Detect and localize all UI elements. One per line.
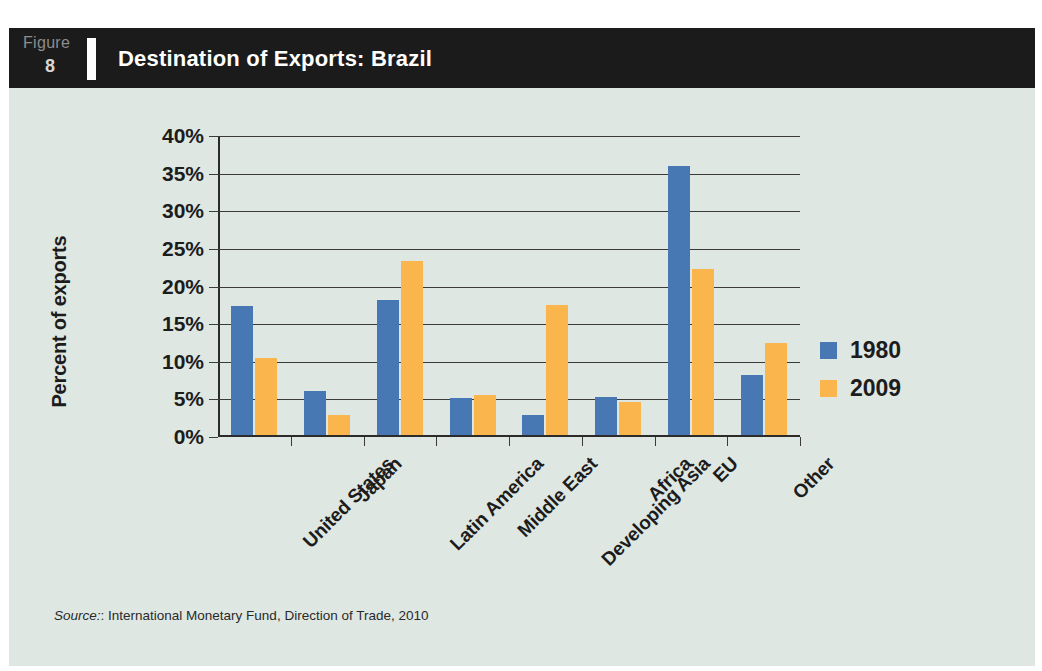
- x-tick-mark: [436, 437, 437, 446]
- header-divider-rule: [87, 38, 96, 80]
- y-tick-label: 5%: [174, 387, 204, 411]
- bar-1980-middle-east: [450, 398, 472, 435]
- y-tick-label: 15%: [162, 312, 204, 336]
- x-axis-label: Developing Asia: [598, 453, 715, 570]
- y-tick-mark: [209, 362, 218, 363]
- bar-2009-japan: [328, 415, 350, 435]
- x-tick-mark: [509, 437, 510, 446]
- legend-item-1980: 1980: [820, 331, 901, 369]
- y-tick-mark: [209, 399, 218, 400]
- figure-header-bar: Figure 8 Destination of Exports: Brazil: [9, 28, 1035, 90]
- bar-2009-africa: [619, 402, 641, 435]
- gridline: [218, 174, 800, 175]
- bar-1980-japan: [304, 391, 326, 435]
- chart-legend: 1980 2009: [820, 331, 901, 407]
- figure-root: Figure 8 Destination of Exports: Brazil …: [0, 0, 1042, 671]
- figure-word-label: Figure: [23, 34, 70, 52]
- source-text: : International Monetary Fund, Direction…: [101, 608, 429, 623]
- figure-panel: Percent of exports 0%5%10%15%20%25%30%35…: [9, 88, 1035, 666]
- y-tick-mark: [209, 324, 218, 325]
- x-tick-mark: [291, 437, 292, 446]
- bar-1980-united-states: [231, 306, 253, 435]
- gridline: [218, 136, 800, 137]
- legend-label-1980: 1980: [850, 337, 901, 364]
- x-axis-label: EU: [708, 453, 742, 487]
- bar-1980-eu: [668, 166, 690, 435]
- bar-1980-developing-asia: [522, 415, 544, 435]
- y-tick-label: 25%: [162, 237, 204, 261]
- bar-chart: Percent of exports 0%5%10%15%20%25%30%35…: [9, 88, 1035, 666]
- bar-2009-eu: [692, 269, 714, 435]
- y-tick-label: 40%: [162, 124, 204, 148]
- bar-2009-united-states: [255, 358, 277, 436]
- figure-number-label: 8: [45, 56, 55, 77]
- legend-label-2009: 2009: [850, 375, 901, 402]
- x-tick-mark: [800, 437, 801, 446]
- y-tick-mark: [209, 437, 218, 438]
- y-tick-label: 30%: [162, 199, 204, 223]
- bar-2009-middle-east: [474, 395, 496, 435]
- x-tick-mark: [655, 437, 656, 446]
- y-tick-mark: [209, 174, 218, 175]
- y-tick-mark: [209, 136, 218, 137]
- y-tick-label: 20%: [162, 275, 204, 299]
- plot-area: 0%5%10%15%20%25%30%35%40%United StatesJa…: [218, 136, 800, 437]
- y-tick-label: 35%: [162, 162, 204, 186]
- x-tick-mark: [582, 437, 583, 446]
- bar-2009-other: [765, 343, 787, 435]
- bar-1980-latin-america: [377, 300, 399, 435]
- figure-number-block: Figure 8: [9, 28, 87, 90]
- x-axis-label: Other: [788, 453, 839, 504]
- legend-swatch-2009-icon: [820, 380, 837, 397]
- gridline: [218, 211, 800, 212]
- legend-swatch-1980-icon: [820, 342, 837, 359]
- x-tick-mark: [364, 437, 365, 446]
- bar-2009-latin-america: [401, 261, 423, 435]
- source-note: Source:: International Monetary Fund, Di…: [54, 608, 428, 623]
- y-tick-mark: [209, 211, 218, 212]
- legend-item-2009: 2009: [820, 369, 901, 407]
- y-axis-title: Percent of exports: [48, 212, 71, 432]
- bar-2009-developing-asia: [546, 305, 568, 435]
- bar-1980-other: [741, 375, 763, 435]
- y-tick-mark: [209, 287, 218, 288]
- x-tick-mark: [727, 437, 728, 446]
- y-tick-mark: [209, 249, 218, 250]
- x-axis-label: Latin America: [446, 453, 548, 555]
- y-tick-label: 0%: [174, 425, 204, 449]
- source-label: Source:: [54, 608, 101, 623]
- y-tick-label: 10%: [162, 350, 204, 374]
- figure-title: Destination of Exports: Brazil: [118, 46, 432, 72]
- bar-1980-africa: [595, 397, 617, 435]
- gridline: [218, 249, 800, 250]
